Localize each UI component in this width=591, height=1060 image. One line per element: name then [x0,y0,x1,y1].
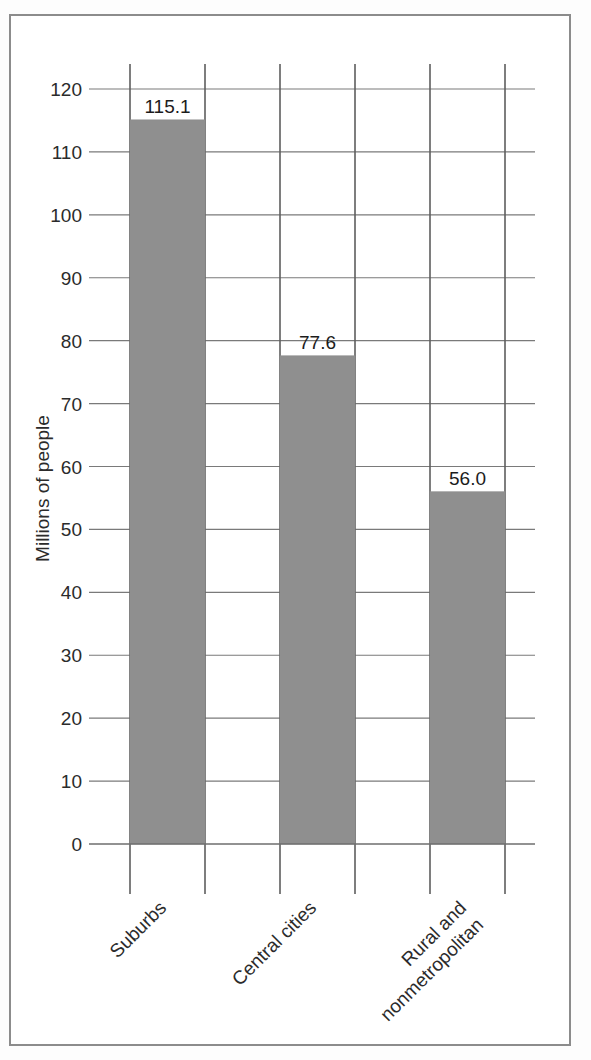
y-tick-label: 60 [61,457,82,478]
bar-chart: 0102030405060708090100110120 115.177.656… [11,16,573,1048]
y-tick-label: 50 [61,519,82,540]
y-tick-label: 80 [61,331,82,352]
chart-svg: 0102030405060708090100110120 115.177.656… [11,16,573,1048]
y-tick-label: 30 [61,645,82,666]
y-tick-label: 70 [61,394,82,415]
y-tick-label: 90 [61,268,82,289]
bar-value-label: 77.6 [299,332,336,353]
scan-artifact-text [150,0,450,10]
category-label-line: Central cities [228,897,321,990]
bar-value-label: 56.0 [449,468,486,489]
bar [430,492,505,844]
category-label: Rural andnonmetropolitan [359,897,487,1025]
y-tick-label: 20 [61,708,82,729]
category-label-line: Suburbs [105,897,170,962]
figure-frame: 0102030405060708090100110120 115.177.656… [9,14,571,1046]
scanned-page: 0102030405060708090100110120 115.177.656… [0,0,591,1060]
bar-value-label: 115.1 [144,96,190,117]
y-tick-label: 120 [50,79,82,100]
x-axis-category-labels: SuburbsCentral citiesRural andnonmetropo… [105,897,487,1025]
y-tick-label: 100 [50,205,82,226]
bar [130,120,205,844]
y-tick-label: 10 [61,771,82,792]
y-tick-label: 0 [71,834,82,855]
bar [280,356,355,844]
y-axis-title: Millions of people [32,415,53,562]
y-axis-title-text: Millions of people [32,415,53,562]
category-label: Suburbs [105,897,170,962]
category-label: Central cities [228,897,321,990]
y-tick-label: 110 [52,142,82,163]
y-axis-tick-labels: 0102030405060708090100110120 [50,79,82,855]
y-tick-label: 40 [61,582,82,603]
y-axis-title-group: Millions of people [32,415,53,562]
